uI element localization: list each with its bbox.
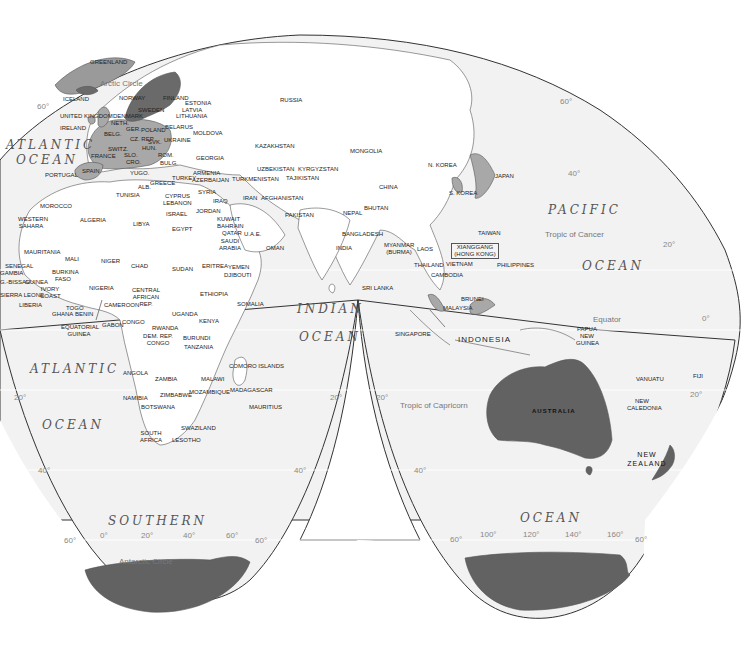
- country-label-gabon: GABON: [102, 322, 124, 329]
- country-label-mauritius: MAURITIUS: [249, 404, 282, 411]
- country-label-china: CHINA: [379, 184, 398, 191]
- country-label-madagascar: MADAGASCAR: [230, 387, 273, 394]
- country-label-nepal: NEPAL: [343, 210, 362, 217]
- lat-label: 20°: [663, 240, 675, 249]
- country-label-mali: MALI: [65, 256, 79, 263]
- lat-label: 20°: [376, 393, 388, 402]
- country-label-congo: CONGO: [122, 319, 145, 326]
- country-label-qatar: QATAR: [222, 230, 242, 237]
- lat-label: 60°: [255, 536, 267, 545]
- lat-label: 60°: [64, 536, 76, 545]
- country-label-iran: IRAN: [243, 195, 257, 202]
- country-label-thailand: THAILAND: [414, 262, 444, 269]
- country-label-rom: ROM.: [158, 152, 174, 159]
- lat-label: 20°: [14, 393, 26, 402]
- lon-label: 120°: [523, 530, 540, 539]
- country-label-kyrgyzstan: KYRGYZSTAN: [298, 166, 338, 173]
- country-label-bangladesh: BANGLADESH: [342, 231, 383, 238]
- ocean-label-pacific-1: PACIFIC: [548, 203, 621, 217]
- country-label-fiji: FIJI: [693, 373, 703, 380]
- lat-label: 60°: [635, 535, 647, 544]
- country-label-somalia: SOMALIA: [237, 301, 264, 308]
- country-label-eritrea: ERITREA: [202, 263, 228, 270]
- country-label-morocco: MOROCCO: [40, 203, 72, 210]
- country-label-sri-lanka: SRI LANKA: [362, 285, 393, 292]
- country-label-india: INDIA: [336, 245, 352, 252]
- lon-label: 100°: [480, 530, 497, 539]
- country-label-tajikistan: TAJIKISTAN: [286, 175, 319, 182]
- country-label-malawi: MALAWI: [201, 376, 224, 383]
- country-label-syria: SYRIA: [198, 189, 216, 196]
- country-label-france: FRANCE: [91, 153, 116, 160]
- country-label-afghanistan: AFGHANISTAN: [261, 195, 303, 202]
- country-label-zimbabwe: ZIMBABWE: [160, 392, 192, 399]
- lon-label: 0°: [100, 531, 108, 540]
- country-label-slo: SLO.: [124, 152, 138, 159]
- country-label-norway: NORWAY: [119, 95, 145, 102]
- country-label-azerbaijan: AZERBAIJAN: [192, 177, 229, 184]
- country-label-zambia: ZAMBIA: [155, 376, 177, 383]
- country-label-kazakhstan: KAZAKHSTAN: [255, 143, 295, 150]
- country-label-papua-new-guinea: PAPUA NEW GUINEA: [576, 326, 598, 347]
- country-label-rwanda: RWANDA: [152, 325, 178, 332]
- country-label-hong-kong: XIANGGANG (HONG KONG): [451, 243, 499, 259]
- country-label-equatorial-guinea: EQUATORIAL GUINEA: [61, 324, 97, 338]
- country-label-bahrain: BAHRAIN: [217, 223, 244, 230]
- country-label-liberia: LIBERIA: [19, 302, 42, 309]
- country-label-yugo: YUGO.: [130, 170, 149, 177]
- country-label-turkmenistan: TURKMENISTAN: [232, 176, 279, 183]
- country-label-laos: LAOS: [417, 246, 433, 253]
- country-label-belarus: BELARUS: [165, 124, 193, 131]
- country-label-denmark: DENMARK: [113, 113, 143, 120]
- country-label-israel: ISRAEL: [166, 211, 187, 218]
- country-label-philippines: PHILIPPINES: [497, 262, 534, 269]
- country-label-angola: ANGOLA: [123, 370, 148, 377]
- ocean-label-indian-2: OCEAN: [299, 330, 361, 344]
- country-label-belg: BELG.: [104, 131, 122, 138]
- country-label-kuwait: KUWAIT: [217, 216, 240, 223]
- lat-label: 0°: [702, 314, 710, 323]
- country-label-guinea: GUINEA: [25, 279, 48, 286]
- country-label-swaziland: SWAZILAND: [181, 425, 216, 432]
- country-label-ukraine: UKRAINE: [164, 137, 191, 144]
- country-label-niger: NIGER: [101, 258, 120, 265]
- country-label-poland: POLAND: [141, 127, 166, 134]
- ocean-label-southern-1: SOUTHERN: [108, 514, 207, 528]
- lat-label: 40°: [568, 169, 580, 178]
- country-label-kenya: KENYA: [199, 318, 219, 325]
- lon-label: 20°: [141, 531, 153, 540]
- country-label-oman: OMAN: [266, 245, 284, 252]
- country-label-malaysia: MALAYSIA: [443, 305, 473, 312]
- country-label-estonia: ESTONIA: [185, 100, 211, 107]
- country-label-central-african-rep: CENTRAL AFRICAN REP.: [126, 287, 166, 308]
- country-label-pakistan: PAKISTAN: [285, 212, 314, 219]
- country-label-djibouti: DJIBOUTI: [224, 272, 251, 279]
- country-label-georgia: GEORGIA: [196, 155, 224, 162]
- country-label-algeria: ALGERIA: [80, 217, 106, 224]
- country-label-ghana: GHANA: [52, 311, 73, 318]
- country-label-libya: LIBYA: [133, 221, 150, 228]
- country-label-moldova: MOLDOVA: [193, 130, 223, 137]
- country-label-senegal: SENEGAL: [5, 263, 33, 270]
- country-label-iceland: ICELAND: [63, 96, 89, 103]
- country-label-indonesia: INDONESIA: [458, 336, 511, 343]
- country-label-greenland: GREENLAND: [90, 59, 127, 66]
- country-label-sierra-leone: SIERRA LEONE: [0, 292, 44, 299]
- country-label-nigeria: NIGERIA: [89, 285, 114, 292]
- country-label-bulg: BULG.: [160, 160, 178, 167]
- country-label-myanmar: MYANMAR (BURMA): [384, 242, 414, 256]
- lat-label: 40°: [294, 466, 306, 475]
- lon-label: 160°: [607, 530, 624, 539]
- lon-label: 140°: [565, 530, 582, 539]
- country-label-new-caledonia: NEW CALEDONIA: [627, 398, 657, 412]
- country-label-burkina-faso: BURKINA FASO: [52, 269, 74, 283]
- country-label-ger: GER.: [126, 126, 141, 133]
- lon-label: 60°: [226, 531, 238, 540]
- lon-label: 40°: [183, 531, 195, 540]
- country-label-yemen: YEMEN: [228, 264, 249, 271]
- country-label-botswana: BOTSWANA: [141, 404, 175, 411]
- lat-label: 40°: [38, 466, 50, 475]
- country-label-australia: AUSTRALIA: [532, 408, 576, 414]
- country-label-vanuatu: VANUATU: [636, 376, 664, 383]
- antarctic-circle-label: Antarctic Circle: [119, 557, 173, 566]
